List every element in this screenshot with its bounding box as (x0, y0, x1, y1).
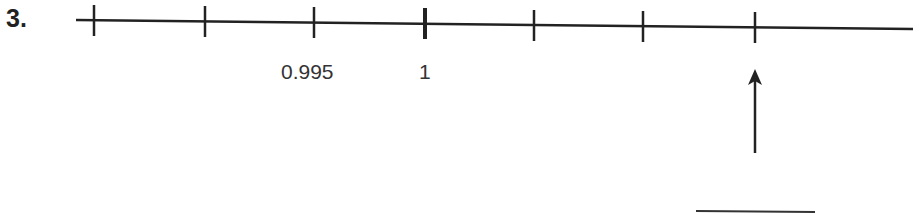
number-line-diagram (0, 0, 913, 215)
answer-blank (696, 211, 815, 212)
number-line (76, 20, 913, 29)
arrow-up-icon (748, 69, 762, 153)
tick-label-0995: 0.995 (281, 60, 334, 84)
tick-label-1: 1 (419, 60, 431, 84)
tick-marks (94, 5, 755, 43)
